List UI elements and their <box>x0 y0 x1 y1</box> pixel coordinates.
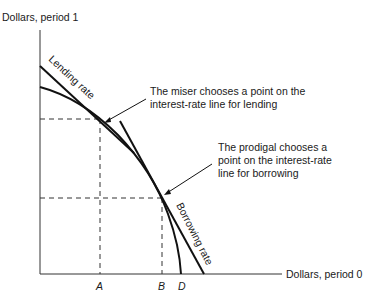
tick-a: A <box>95 280 103 292</box>
y-axis-label: Dollars, period 1 <box>2 11 79 23</box>
miser-pointer <box>107 99 146 121</box>
prodigal-annotation-line3: line for borrowing <box>218 167 299 179</box>
prodigal-arrowhead-icon <box>164 189 171 195</box>
prodigal-annotation-line2: point on the interest-rate <box>218 154 332 166</box>
intertemporal-choice-diagram: Dollars, period 1 Dollars, period 0 A B … <box>0 0 373 303</box>
tick-d: D <box>178 280 186 292</box>
prodigal-pointer <box>167 164 212 193</box>
investment-opportunity-curve <box>40 87 181 274</box>
tick-b: B <box>158 280 165 292</box>
miser-annotation-line2: interest-rate line for lending <box>150 98 277 110</box>
lending-rate-line <box>40 66 134 153</box>
lending-rate-label: Lending rate <box>47 53 98 102</box>
miser-arrowhead-icon <box>104 117 111 123</box>
miser-annotation-line1: The miser chooses a point on the <box>150 85 305 97</box>
prodigal-annotation-line1: The prodigal chooses a <box>218 141 327 153</box>
x-axis-label: Dollars, period 0 <box>286 268 363 280</box>
